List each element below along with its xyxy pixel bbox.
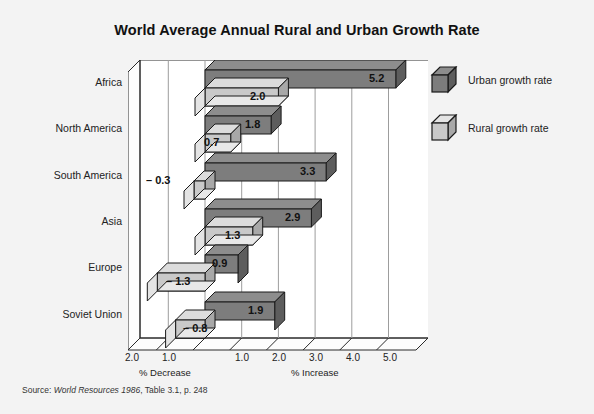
chart-legend: Urban growth rate Rural growth rate	[428, 62, 588, 172]
value-label-asia-urban: 2.9	[285, 211, 300, 223]
category-label-africa: Africa	[2, 76, 122, 88]
dark-cube-icon	[428, 66, 458, 94]
value-label-africa-rural: 2.0	[250, 90, 265, 102]
xtick-pos-1: 1.0	[227, 352, 257, 363]
value-label-south-america-urban: 3.3	[300, 165, 315, 177]
plot-canvas	[128, 60, 428, 352]
legend-label-rural: Rural growth rate	[468, 122, 549, 134]
value-label-soviet-union-rural: – 0.8	[183, 322, 207, 334]
value-label-north-america-rural: 0.7	[204, 136, 219, 148]
category-label-soviet-union: Soviet Union	[2, 308, 122, 320]
category-label-north-america: North America	[2, 122, 122, 134]
legend-item-urban[interactable]: Urban growth rate	[428, 66, 552, 94]
xtick-neg-2: 2.0	[117, 352, 147, 363]
source-detail: , Table 3.1, p. 248	[140, 385, 207, 395]
axis-caption-increase: % Increase	[291, 367, 339, 378]
bar-south-america-urban	[205, 153, 336, 181]
value-label-south-america-rural: – 0.3	[146, 174, 170, 186]
xtick-pos-4: 4.0	[338, 352, 368, 363]
light-cube-icon	[428, 114, 458, 142]
legend-label-urban: Urban growth rate	[468, 74, 552, 86]
value-label-europe-rural: – 1.3	[166, 275, 190, 287]
plot-left-wall	[128, 60, 140, 350]
value-axis-labels: 2.0 1.0 1.0 2.0 3.0 4.0 5.0	[0, 352, 594, 368]
chart-figure: World Average Annual Rural and Urban Gro…	[0, 0, 594, 414]
legend-item-rural[interactable]: Rural growth rate	[428, 114, 549, 142]
axis-caption-decrease: % Decrease	[139, 367, 191, 378]
xtick-pos-5: 5.0	[375, 352, 405, 363]
source-note: Source: World Resources 1986, Table 3.1,…	[22, 385, 208, 395]
value-label-africa-urban: 5.2	[369, 72, 384, 84]
category-axis-labels: Africa North America South America Asia …	[0, 60, 122, 350]
source-publication: World Resources 1986	[54, 385, 140, 395]
value-label-europe-urban: 0.9	[212, 257, 227, 269]
chart-title: World Average Annual Rural and Urban Gro…	[0, 22, 594, 38]
plot-area: 5.2 2.0 1.8 0.7 3.3 – 0.3 2.9 1.3 0.9 – …	[128, 60, 428, 350]
category-label-south-america: South America	[2, 169, 122, 181]
source-prefix: Source:	[22, 385, 51, 395]
category-label-asia: Asia	[2, 215, 122, 227]
xtick-pos-3: 3.0	[301, 352, 331, 363]
xtick-neg-1: 1.0	[154, 352, 184, 363]
value-label-asia-rural: 1.3	[225, 229, 240, 241]
category-label-europe: Europe	[2, 261, 122, 273]
value-label-north-america-urban: 1.8	[245, 118, 260, 130]
value-label-soviet-union-urban: 1.9	[248, 304, 263, 316]
xtick-pos-2: 2.0	[264, 352, 294, 363]
